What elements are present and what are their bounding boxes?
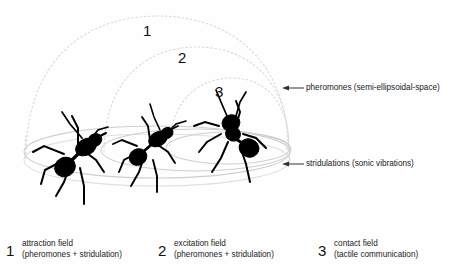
ant-right-leg-1 (194, 122, 219, 126)
legend-text-3: contact field (tactile communication) (334, 236, 418, 260)
field-number-1: 1 (143, 23, 151, 38)
diagram-page: 1 2 3 pheromones (semi-ellipsoidal-space… (0, 0, 462, 276)
stridulations-arrowhead-icon (282, 162, 289, 167)
dome-wall-left-1 (25, 134, 26, 158)
legend-title-1: attraction field (22, 239, 73, 248)
ant-left (33, 112, 108, 204)
ant-middle-waist (144, 145, 151, 151)
legend-title-2: excitation field (174, 239, 226, 248)
ant-middle-leg-1 (113, 140, 137, 146)
legend-text-2: excitation field (pheromones + stridulat… (174, 236, 274, 260)
legend-subtitle-3: (tactile communication) (334, 249, 418, 260)
callout-label-pheromones: pheromones (semi-ellipsoidal-space) (306, 84, 440, 92)
field-number-2: 2 (178, 50, 186, 65)
ant-right-leg-2 (199, 134, 221, 152)
legend-number-1: 1 (6, 236, 22, 258)
ant-right-leg-3 (212, 142, 228, 172)
pheromones-arrowhead-icon (282, 86, 289, 91)
ant-left-leg-1 (33, 146, 64, 154)
legend-number-2: 2 (158, 236, 174, 258)
legend: 1 attraction field (pheromones + stridul… (0, 236, 462, 276)
legend-title-3: contact field (334, 239, 378, 248)
legend-number-3: 3 (318, 236, 334, 258)
field-number-3: 3 (215, 84, 223, 99)
legend-item-excitation-field: 2 excitation field (pheromones + stridul… (158, 236, 274, 260)
legend-item-contact-field: 3 contact field (tactile communication) (318, 236, 418, 260)
ant-middle-leg-6 (153, 160, 157, 192)
legend-subtitle-2: (pheromones + stridulation) (174, 249, 274, 260)
legend-item-attraction-field: 1 attraction field (pheromones + stridul… (6, 236, 122, 260)
callout-label-stridulations: stridulations (sonic vibrations) (306, 160, 414, 168)
legend-text-1: attraction field (pheromones + stridulat… (22, 236, 122, 260)
ant-middle-leg-4 (142, 117, 150, 140)
legend-subtitle-1: (pheromones + stridulation) (22, 249, 122, 260)
ant-communication-diagram (0, 0, 462, 276)
